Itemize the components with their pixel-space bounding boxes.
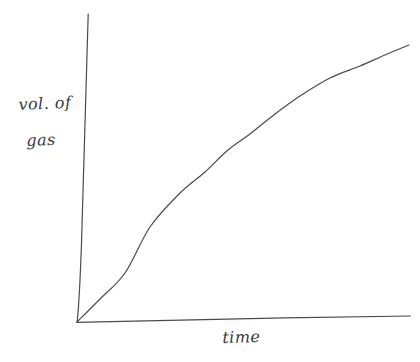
y-axis-label-line2: gas xyxy=(26,130,56,150)
hand-drawn-chart-figure: vol. of gas time xyxy=(0,0,420,362)
sketch-canvas xyxy=(0,0,420,362)
gas-volume-curve xyxy=(77,45,409,322)
y-axis-line xyxy=(77,14,88,322)
y-axis-label-line1: vol. of xyxy=(18,93,72,114)
x-axis-line xyxy=(77,316,411,322)
x-axis-label: time xyxy=(222,327,261,347)
